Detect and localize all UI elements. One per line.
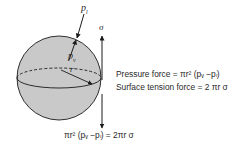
bubble-sphere bbox=[17, 36, 101, 120]
label-sigma: σ bbox=[99, 23, 103, 32]
force-balance-equation: πr² (pᵥ −pₗ) = 2πr σ bbox=[64, 131, 134, 139]
label-radius: r bbox=[70, 65, 74, 74]
surface-tension-force-equation: Surface tension force = 2 πr σ bbox=[116, 83, 228, 91]
label-p-liquid: pl bbox=[81, 3, 88, 15]
liquid-pressure-arrow bbox=[77, 14, 84, 38]
label-p-vapour: pv bbox=[68, 51, 76, 63]
pressure-force-equation: Pressure force = πr² (pᵥ −pₗ) bbox=[116, 70, 220, 78]
